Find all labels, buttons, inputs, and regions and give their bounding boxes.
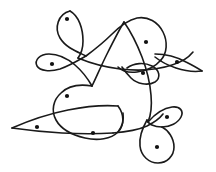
region-dot-far-left-point: [35, 125, 39, 129]
figure-canvas: [0, 0, 216, 172]
region-dot-bottom-center-lobe: [91, 131, 95, 135]
region-dot-right-eyelet: [175, 60, 179, 64]
region-dot-left-eyelet: [50, 62, 54, 66]
region-dot-bottom-right-eyelet: [165, 115, 169, 119]
region-dot-top-left-teardrop: [65, 17, 69, 21]
region-dot-top-right-dome: [144, 40, 148, 44]
region-dot-bottom-right-loop: [155, 145, 159, 149]
region-dot-center-left-lobe: [65, 94, 69, 98]
curve-diagram-svg: [0, 0, 216, 172]
figure-background: [0, 0, 216, 172]
region-dot-center-right-eyelet: [141, 71, 145, 75]
